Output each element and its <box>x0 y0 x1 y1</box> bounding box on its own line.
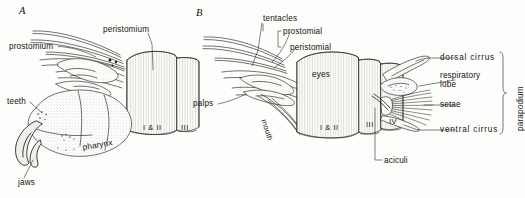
label-eyes-b: eyes <box>312 70 330 79</box>
label-prostomium-a: prostomium <box>9 42 53 51</box>
label-prostomial-b: prostomial <box>283 27 322 36</box>
segment-label-a-1: I & II <box>143 123 162 132</box>
label-respiratory-lobe-line1: respiratory <box>440 71 480 80</box>
segment-label-b-1: I & II <box>320 123 339 132</box>
label-setae: setae <box>440 100 461 109</box>
label-respiratory-lobe-line2: lobe <box>440 80 456 89</box>
label-dorsal-cirrus: dorsal cirrus <box>440 53 495 62</box>
label-jaws-a: jaws <box>18 178 35 187</box>
panel-a-letter: A <box>19 5 25 16</box>
panel-b-letter: B <box>196 7 202 18</box>
segment-label-a-2: III <box>181 123 189 132</box>
label-ventral-cirrus: ventral cirrus <box>440 125 498 134</box>
label-aciculi-b: aciculi <box>384 156 408 165</box>
label-teeth-a: teeth <box>7 97 26 106</box>
label-palps-b: palps <box>193 99 213 108</box>
label-parapodium-bracket: parapodium <box>516 86 525 131</box>
parapodium-bracket <box>500 52 507 134</box>
segment-label-b-2: III <box>366 120 374 129</box>
segment-label-b-3: IV <box>389 117 397 126</box>
label-tentacles-b: tentacles <box>263 14 297 23</box>
label-peristomium-a: peristomium <box>103 25 149 34</box>
label-peristomial-b: peristomial <box>290 43 331 52</box>
